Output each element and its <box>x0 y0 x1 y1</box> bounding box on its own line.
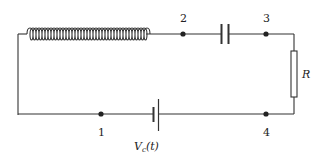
resistor-label: R <box>301 68 310 81</box>
node-2-label: 2 <box>180 12 187 25</box>
node-3-label: 3 <box>263 12 270 25</box>
source-label-arg: (t) <box>146 140 159 153</box>
source-label: Vc(t) <box>134 140 159 154</box>
node-1-dot <box>98 111 103 116</box>
inductor-icon <box>27 28 150 40</box>
node-1-label: 1 <box>98 126 105 139</box>
circuit-diagram: 2 3 1 4 R Vc(t) <box>0 0 323 157</box>
resistor-icon <box>291 51 297 97</box>
node-4-label: 4 <box>263 126 270 139</box>
node-4-dot <box>263 111 268 116</box>
node-2-dot <box>180 31 185 36</box>
node-3-dot <box>263 31 268 36</box>
